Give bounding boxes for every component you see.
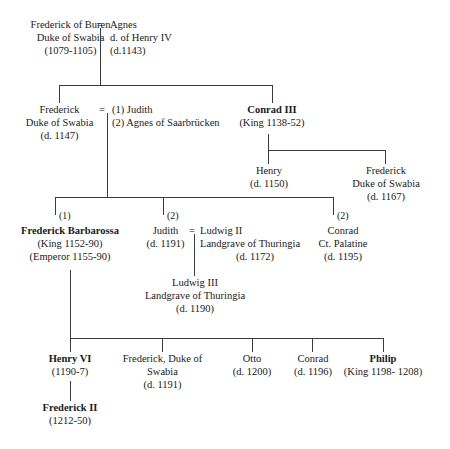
node-line: Henry VI [32, 352, 108, 365]
node-henry-1150: Henry (d. 1150) [228, 164, 310, 190]
node-line: (d. 1190) [140, 302, 250, 315]
connector-to-conrad-iii [272, 85, 273, 103]
connector-to-frederick-1191 [162, 338, 163, 352]
node-frederick-duke-of-swabia-1191: Frederick, Duke of Swabia (d. 1191) [114, 352, 211, 392]
node-line: Conrad [298, 224, 388, 237]
birth-order-marker-judith: (2) [167, 210, 179, 222]
node-conrad-ct-palatine: Conrad Ct. Palatine (d. 1195) [298, 224, 388, 264]
node-line: d. of Henry IV [110, 31, 215, 44]
node-line: Duke of Swabia [337, 177, 435, 190]
sibling-bar-generation-2 [59, 85, 273, 86]
connector-to-conrad-1196 [312, 338, 313, 352]
node-frederick-barbarossa-titles: (King 1152-90) (Emperor 1155-90) [5, 237, 135, 263]
node-ludwig-ii: Ludwig II Landgrave of Thuringia [200, 224, 310, 250]
node-line: Ct. Palatine [298, 237, 388, 250]
birth-order-marker-conrad: (2) [337, 210, 349, 222]
node-line: (Emperor 1155-90) [5, 250, 135, 263]
connector-to-barbarossa [55, 197, 56, 215]
node-line: (King 1152-90) [5, 237, 135, 250]
connector-to-frederick-1147 [59, 85, 60, 103]
node-conrad-iii: Conrad III [228, 103, 316, 116]
stem-henry-vi-to-frederick-ii [70, 381, 71, 401]
node-line: Landgrave of Thuringia [200, 237, 310, 250]
node-line: (1) Judith [112, 103, 247, 116]
node-line: (d. 1195) [298, 250, 388, 263]
node-frederick-duke-of-swabia-1147: Frederick Duke of Swabia (d. 1147) [12, 103, 107, 143]
connector-to-frederick-1167 [385, 150, 386, 164]
node-line: (1190-7) [32, 365, 108, 378]
node-conrad-iii-reign: (King 1138-52) [228, 116, 316, 129]
node-line: Judith [138, 224, 193, 237]
node-line: Frederick [337, 164, 435, 177]
sibling-bar-barbarossa-children [70, 338, 383, 339]
node-henry-vi-reign: (1190-7) [32, 365, 108, 378]
node-frederick-ii-reign: (1212-50) [32, 414, 108, 427]
node-line: (King 1138-52) [228, 116, 316, 129]
node-judith-1191: Judith (d. 1191) [138, 224, 193, 250]
node-line: Conrad III [228, 103, 316, 116]
node-frederick-duke-of-swabia-1167: Frederick Duke of Swabia (d. 1167) [337, 164, 435, 204]
node-line: Ludwig II [200, 224, 310, 237]
node-frederick-barbarossa: Frederick Barbarossa [5, 224, 135, 237]
node-line: Frederick [12, 103, 107, 116]
node-line: Henry [228, 164, 310, 177]
node-philip-reign: (King 1198- 1208) [337, 365, 429, 378]
node-line: (d. 1172) [200, 250, 310, 263]
connector-to-philip [383, 338, 384, 352]
sibling-bar-generation-3 [55, 197, 334, 198]
node-line: Swabia [114, 365, 211, 378]
stem-conrad-iii [268, 134, 269, 150]
birth-order-marker-barbarossa: (1) [59, 210, 71, 222]
connector-to-henry-1150 [268, 150, 269, 164]
node-line: (d. 1150) [228, 177, 310, 190]
connector-to-otto [252, 338, 253, 352]
connector-to-judith-1191 [163, 197, 164, 215]
sibling-bar-conrad-iii-children [268, 150, 385, 151]
node-line: Philip [344, 352, 422, 365]
node-line: (d.1143) [110, 44, 215, 57]
connector-to-conrad-ct-palatine [333, 197, 334, 215]
node-line: Landgrave of Thuringia [140, 289, 250, 302]
node-line: Frederick II [32, 401, 108, 414]
marriage-line-frederick-wives [107, 113, 108, 197]
family-tree-diagram: Frederick of Buren Duke of Swabia (1079-… [0, 0, 450, 449]
connector-to-henry-vi [70, 338, 71, 352]
marriage-line-buren-agnes [100, 28, 101, 85]
node-henry-vi: Henry VI [32, 352, 108, 365]
node-line: (King 1198- 1208) [337, 365, 429, 378]
node-frederick-ii: Frederick II [32, 401, 108, 414]
node-line: Duke of Swabia [12, 116, 107, 129]
node-line: Ludwig III [140, 276, 250, 289]
node-philip: Philip [344, 352, 422, 365]
node-wives-judith-agnes: (1) Judith (2) Agnes of Saarbrücken [112, 103, 247, 129]
node-ludwig-iii: Ludwig III Landgrave of Thuringia (d. 11… [140, 276, 250, 316]
marriage-line-judith-ludwig [194, 234, 195, 276]
node-ludwig-ii-death: (d. 1172) [200, 250, 310, 263]
node-line: Frederick, Duke of [114, 352, 211, 365]
node-line: (d. 1167) [337, 190, 435, 203]
node-line: (d. 1191) [138, 237, 193, 250]
stem-barbarossa [70, 270, 71, 338]
node-line: Conrad [276, 352, 350, 365]
node-line: (d. 1147) [12, 129, 107, 142]
node-line: Frederick Barbarossa [5, 224, 135, 237]
node-line: (2) Agnes of Saarbrücken [112, 116, 247, 129]
node-agnes: Agnes d. of Henry IV (d.1143) [110, 18, 215, 58]
node-line: (1212-50) [32, 414, 108, 427]
marriage-symbol-frederick-judith: = [99, 103, 105, 116]
node-line: Agnes [110, 18, 215, 31]
node-line: (d. 1191) [114, 378, 211, 391]
